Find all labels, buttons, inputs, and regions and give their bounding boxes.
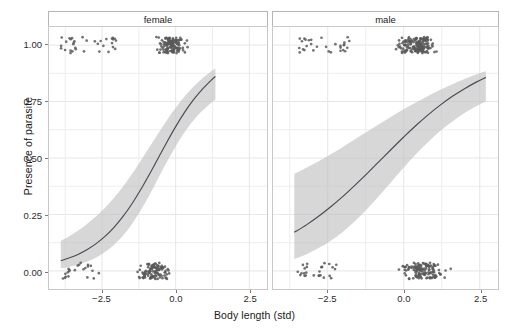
facet-strip-label-male: male	[375, 14, 396, 25]
confidence-ribbon	[294, 71, 486, 259]
x-axis-title: Body length (std)	[0, 309, 509, 321]
x-tick-mark	[481, 290, 482, 293]
facet-panel-male	[272, 26, 499, 290]
x-tick-label: 2.5	[461, 293, 501, 304]
y-tick-label: 0.50	[8, 153, 42, 164]
facet-plot-area	[49, 27, 267, 289]
facet-strip-female: female	[48, 11, 268, 27]
x-tick-mark	[176, 290, 177, 293]
x-tick-mark	[250, 290, 251, 293]
confidence-ribbon	[61, 69, 216, 269]
x-tick-mark	[102, 290, 103, 293]
x-tick-mark	[327, 290, 328, 293]
x-tick-mark	[404, 290, 405, 293]
figure-root: Presence of parasite Body length (std) 0…	[0, 0, 509, 331]
y-tick-label: 0.00	[8, 266, 42, 277]
facet-strip-label-female: female	[144, 14, 173, 25]
facet-plot-area	[273, 27, 498, 289]
x-tick-label: 2.5	[230, 293, 270, 304]
x-tick-label: −2.5	[307, 293, 347, 304]
y-tick-label: 0.25	[8, 209, 42, 220]
x-tick-label: 0.0	[156, 293, 196, 304]
y-axis-title: Presence of parasite	[22, 26, 34, 266]
facet-strip-male: male	[272, 11, 499, 27]
x-tick-label: 0.0	[384, 293, 424, 304]
x-tick-label: −2.5	[82, 293, 122, 304]
facet-panel-female	[48, 26, 268, 290]
y-tick-label: 0.75	[8, 96, 42, 107]
y-tick-label: 1.00	[8, 39, 42, 50]
